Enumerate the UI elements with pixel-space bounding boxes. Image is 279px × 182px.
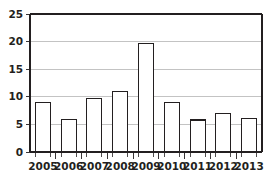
x-tick-label-2013: 2013: [234, 160, 263, 172]
bars-group: [35, 43, 256, 152]
bar-2009: [139, 43, 154, 152]
bar-2013: [242, 119, 257, 152]
bar-chart-figure: 0510152025 20052006200720082009201020112…: [0, 0, 279, 182]
bar-chart-canvas: 0510152025 20052006200720082009201020112…: [0, 0, 279, 182]
bar-2010: [164, 103, 179, 152]
y-tick-label-10: 10: [8, 90, 23, 102]
x-axis-tick-labels-group: 200520062007200820092010201120122013: [28, 160, 263, 172]
bar-2012: [216, 114, 231, 152]
y-axis-ticks-group: [26, 14, 30, 152]
bar-2008: [113, 91, 128, 152]
y-tick-label-20: 20: [8, 35, 23, 47]
y-tick-label-25: 25: [8, 8, 23, 20]
x-axis-ticks-group: [35, 152, 256, 159]
y-tick-label-0: 0: [16, 146, 23, 158]
bar-2007: [87, 98, 102, 152]
y-axis-tick-labels-group: 0510152025: [8, 8, 23, 158]
bar-2006: [61, 119, 76, 152]
bar-2005: [35, 102, 50, 152]
y-tick-label-15: 15: [8, 63, 23, 75]
bar-2011: [190, 120, 205, 152]
y-tick-label-5: 5: [16, 118, 23, 130]
